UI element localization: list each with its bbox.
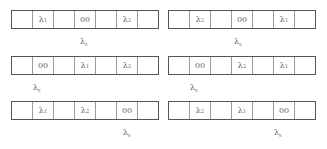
- panel-row3-right: λ2 λ1 00 λs: [168, 101, 316, 141]
- lambda-s-marker: λs: [123, 128, 131, 138]
- panel-row1-left: λ1 00 λ2 λs: [11, 10, 159, 50]
- cell-empty: [294, 102, 315, 119]
- cell-empty: [169, 57, 189, 74]
- cell-empty: [252, 11, 273, 28]
- cell-lambda1: λ1: [32, 11, 53, 28]
- panel-row2-right: 00 λ2 λ1 λs: [168, 56, 316, 96]
- lambda-subscript: s: [128, 132, 131, 138]
- cell-strip: λ2 λ1 00: [168, 101, 316, 120]
- zero-label: 00: [122, 106, 132, 115]
- cell-lambda2: λ2: [189, 102, 210, 119]
- lambda-subscript: 2: [86, 108, 89, 114]
- cell-zero: 00: [189, 57, 210, 74]
- lambda-s-marker: λs: [33, 83, 41, 93]
- lambda-subscript: s: [279, 132, 282, 138]
- cell-empty: [169, 102, 189, 119]
- cell-strip: λ1 00 λ2: [11, 10, 159, 29]
- lambda-subscript: 1: [44, 17, 47, 23]
- cell-empty: [252, 57, 273, 74]
- cell-lambda1: λ1: [74, 57, 95, 74]
- panel-row3-left: λ1 λ2 00 λs: [11, 101, 159, 141]
- lambda-subscript: s: [195, 87, 198, 93]
- lambda-s-marker: λs: [274, 128, 282, 138]
- lambda-subscript: 1: [243, 108, 246, 114]
- cell-lambda1: λ1: [273, 57, 294, 74]
- cell-empty: [137, 57, 158, 74]
- lambda-subscript: 2: [128, 63, 131, 69]
- cell-empty: [53, 57, 74, 74]
- cell-empty: [12, 102, 32, 119]
- cell-empty: [294, 57, 315, 74]
- cell-empty: [95, 11, 116, 28]
- cell-lambda2: λ2: [116, 11, 137, 28]
- lambda-subscript: 2: [128, 17, 131, 23]
- cell-empty: [210, 11, 231, 28]
- zero-label: 00: [279, 106, 289, 115]
- cell-empty: [252, 102, 273, 119]
- zero-label: 00: [237, 15, 247, 24]
- cell-empty: [12, 11, 32, 28]
- lambda-subscript: 2: [243, 63, 246, 69]
- zero-label: 00: [38, 61, 48, 70]
- lambda-subscript: 2: [201, 17, 204, 23]
- cell-empty: [95, 102, 116, 119]
- cell-empty: [210, 57, 231, 74]
- lambda-subscript: 1: [285, 17, 288, 23]
- cell-empty: [294, 11, 315, 28]
- cell-strip: 00 λ2 λ1: [168, 56, 316, 75]
- lambda-s-marker: λs: [234, 37, 242, 47]
- cell-strip: λ1 λ2 00: [11, 101, 159, 120]
- cell-lambda2: λ2: [116, 57, 137, 74]
- cell-empty: [12, 57, 32, 74]
- cell-empty: [95, 57, 116, 74]
- cell-empty: [53, 102, 74, 119]
- cell-empty: [137, 102, 158, 119]
- cell-empty: [137, 11, 158, 28]
- cell-empty: [53, 11, 74, 28]
- cell-zero: 00: [273, 102, 294, 119]
- cell-zero: 00: [74, 11, 95, 28]
- lambda-subscript: 1: [44, 108, 47, 114]
- cell-lambda1: λ1: [32, 102, 53, 119]
- cell-lambda2: λ2: [74, 102, 95, 119]
- cell-empty: [169, 11, 189, 28]
- zero-label: 00: [195, 61, 205, 70]
- lambda-s-marker: λs: [80, 37, 88, 47]
- lambda-s-marker: λs: [190, 83, 198, 93]
- cell-lambda2: λ2: [231, 57, 252, 74]
- lambda-subscript: 1: [285, 63, 288, 69]
- cell-lambda1: λ1: [273, 11, 294, 28]
- cell-zero: 00: [32, 57, 53, 74]
- cell-zero: 00: [116, 102, 137, 119]
- cell-lambda1: λ1: [231, 102, 252, 119]
- zero-label: 00: [80, 15, 90, 24]
- lambda-subscript: 1: [86, 63, 89, 69]
- cell-strip: 00 λ1 λ2: [11, 56, 159, 75]
- panel-row1-right: λ2 00 λ1 λs: [168, 10, 316, 50]
- cell-empty: [210, 102, 231, 119]
- cell-zero: 00: [231, 11, 252, 28]
- cell-strip: λ2 00 λ1: [168, 10, 316, 29]
- lambda-subscript: s: [38, 87, 41, 93]
- lambda-subscript: s: [85, 41, 88, 47]
- panel-row2-left: 00 λ1 λ2 λs: [11, 56, 159, 96]
- lambda-subscript: 2: [201, 108, 204, 114]
- cell-lambda2: λ2: [189, 11, 210, 28]
- lambda-subscript: s: [239, 41, 242, 47]
